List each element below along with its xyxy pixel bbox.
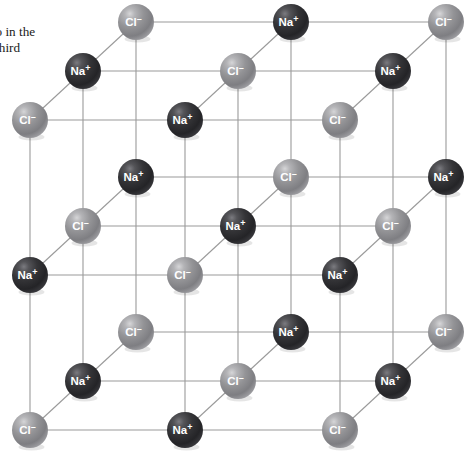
ion-charge: –	[186, 267, 191, 277]
ion-na[interactable]: Na+	[375, 53, 411, 92]
ion-na[interactable]: Na+	[375, 363, 411, 402]
lattice-diagram: Cl–Na+Cl–Na+Cl–Na+Cl–Na+Cl–Na+Cl–Na+Cl–N…	[0, 0, 470, 456]
ion-charge: +	[85, 63, 90, 73]
ion-charge: +	[395, 63, 400, 73]
ion-charge: +	[240, 218, 245, 228]
ion-charge: +	[32, 267, 37, 277]
ion-charge: +	[342, 267, 347, 277]
ion-cl[interactable]: Cl–	[118, 4, 154, 43]
ion-charge: +	[448, 169, 453, 179]
ion-layer: Cl–Na+Cl–Na+Cl–Na+Cl–Na+Cl–Na+Cl–Na+Cl–N…	[12, 4, 464, 451]
ion-cl[interactable]: Cl–	[118, 314, 154, 353]
ion-na[interactable]: Na+	[167, 412, 203, 451]
ion-charge: +	[85, 373, 90, 383]
ion-charge: –	[239, 63, 244, 73]
ion-cl[interactable]: Cl–	[12, 102, 48, 141]
ion-charge: –	[137, 14, 142, 24]
ion-charge: +	[187, 112, 192, 122]
nacl-lattice-figure: wo in the e third he Cl–Na+Cl–Na+Cl–Na+C…	[0, 0, 470, 456]
ion-na[interactable]: Na+	[65, 363, 101, 402]
ion-na[interactable]: Na+	[12, 257, 48, 296]
ion-charge: –	[84, 218, 89, 228]
ion-charge: –	[239, 373, 244, 383]
ion-charge: –	[447, 324, 452, 334]
ion-charge: +	[293, 324, 298, 334]
ion-cl[interactable]: Cl–	[322, 102, 358, 141]
ion-cl[interactable]: Cl–	[322, 412, 358, 451]
ion-charge: –	[31, 422, 36, 432]
ion-cl[interactable]: Cl–	[65, 208, 101, 247]
ion-cl[interactable]: Cl–	[220, 53, 256, 92]
ion-charge: –	[292, 169, 297, 179]
ion-charge: –	[31, 112, 36, 122]
ion-cl[interactable]: Cl–	[167, 257, 203, 296]
ion-charge: +	[138, 169, 143, 179]
ion-charge: +	[293, 14, 298, 24]
ion-na[interactable]: Na+	[220, 208, 256, 247]
ion-na[interactable]: Na+	[428, 159, 464, 198]
ion-charge: –	[137, 324, 142, 334]
ion-na[interactable]: Na+	[118, 159, 154, 198]
ion-cl[interactable]: Cl–	[220, 363, 256, 402]
ion-na[interactable]: Na+	[322, 257, 358, 296]
ion-charge: –	[341, 112, 346, 122]
ion-charge: –	[341, 422, 346, 432]
ion-cl[interactable]: Cl–	[428, 4, 464, 43]
ion-cl[interactable]: Cl–	[428, 314, 464, 353]
ion-cl[interactable]: Cl–	[12, 412, 48, 451]
ion-cl[interactable]: Cl–	[273, 159, 309, 198]
ion-charge: –	[447, 14, 452, 24]
ion-charge: +	[395, 373, 400, 383]
ion-cl[interactable]: Cl–	[375, 208, 411, 247]
ion-na[interactable]: Na+	[167, 102, 203, 141]
ion-na[interactable]: Na+	[273, 4, 309, 43]
ion-charge: +	[187, 422, 192, 432]
ion-charge: –	[394, 218, 399, 228]
ion-na[interactable]: Na+	[65, 53, 101, 92]
ion-na[interactable]: Na+	[273, 314, 309, 353]
